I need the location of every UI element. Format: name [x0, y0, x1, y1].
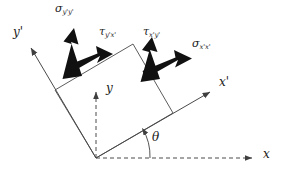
x-axis-label: x [263, 148, 270, 160]
tau-y-prime-x-prime-label: τy'x' [99, 26, 116, 39]
y-axis-label: y [106, 82, 113, 94]
theta-angle-label: θ [152, 131, 159, 143]
tau-x-prime-y-prime-label: τx'y' [143, 26, 160, 39]
x-prime-axis-label: x' [219, 76, 229, 88]
y-prime-axis-label: y' [13, 26, 23, 38]
theta-arc [143, 129, 151, 159]
sigma-x-prime-x-prime-label: σx'x' [192, 38, 210, 51]
sigma-y-prime-y-prime-label: σy'y' [55, 3, 73, 16]
stress-element-figure [0, 0, 283, 175]
